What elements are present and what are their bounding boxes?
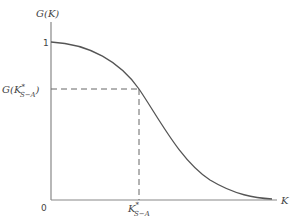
x-marker-label: K*S−A xyxy=(127,201,150,218)
g-k-curve xyxy=(51,42,272,199)
x-axis-label: K xyxy=(280,195,289,206)
origin-label: 0 xyxy=(41,203,47,213)
y-tick-one: 1 xyxy=(43,38,49,48)
diagram-canvas: G(K) 1 0 K G(K*S−A) K*S−A xyxy=(0,0,301,223)
y-axis-label: G(K) xyxy=(36,8,59,19)
y-marker-label: G(K*S−A) xyxy=(2,83,40,99)
